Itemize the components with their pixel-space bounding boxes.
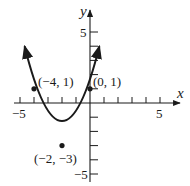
y-tick-label-neg5: −5 bbox=[74, 167, 88, 182]
parabola-graph: y x −5 5 5 −5 (−4, 1) (0, 1) (−2, −3) bbox=[0, 0, 190, 186]
y-axis-label: y bbox=[78, 3, 87, 19]
x-tick-label-neg5: −5 bbox=[12, 106, 26, 121]
x-tick-label-5: 5 bbox=[156, 106, 163, 121]
point-right-label: (0, 1) bbox=[93, 74, 121, 89]
point-vertex bbox=[59, 143, 64, 148]
point-left-label: (−4, 1) bbox=[38, 74, 74, 89]
y-tick-label-5: 5 bbox=[80, 25, 87, 40]
point-vertex-label: (−2, −3) bbox=[34, 151, 77, 166]
x-axis-label: x bbox=[176, 85, 184, 101]
point-right bbox=[87, 86, 92, 91]
point-left bbox=[31, 86, 36, 91]
